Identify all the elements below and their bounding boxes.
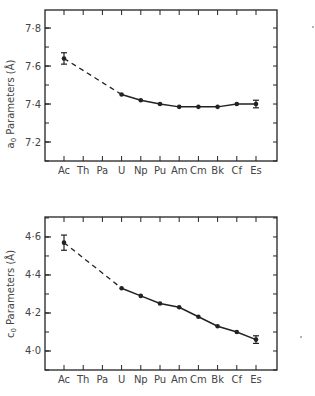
x-tick-label: Bk [211,165,224,176]
data-point [215,324,220,329]
chart-a0-parameters: AcThPaUNpPuAmCmBkCfEs7·27·47·67·8a0 Para… [4,10,277,176]
x-tick-label: Pa [97,165,109,176]
x-tick-label: Am [171,165,188,176]
extrapolated-trend-line [64,58,122,94]
data-point [158,102,163,107]
data-point [254,337,259,342]
data-point [254,102,259,107]
plot-frame [45,217,277,370]
figure: AcThPaUNpPuAmCmBkCfEs7·27·47·67·8a0 Para… [0,0,315,396]
data-point [215,105,220,110]
y-tick-label: 7·2 [25,137,41,148]
y-tick-label: 7·6 [25,61,41,72]
data-point [139,294,144,299]
x-tick-label: Es [250,374,262,385]
data-point [62,240,67,245]
data-point [119,286,124,291]
x-tick-label: U [118,165,125,176]
x-tick-label: Bk [211,374,224,385]
data-point [158,301,163,306]
x-tick-label: Ac [58,165,70,176]
x-tick-label: Np [134,374,148,385]
x-tick-label: Cm [190,374,207,385]
x-tick-label: Am [171,374,188,385]
data-point [235,330,240,335]
y-axis-label: c0 Parameters (Å) [4,250,18,338]
data-point [196,105,201,110]
chart-c0-parameters: AcThPaUNpPuAmCmBkCfEs4·04·24·44·6c0 Para… [4,217,277,385]
extrapolated-trend-line [64,243,122,289]
x-tick-label: Cf [232,374,243,385]
data-point [119,92,124,97]
y-tick-label: 7·8 [25,23,41,34]
y-tick-label: 4·6 [25,231,41,242]
x-tick-label: U [118,374,125,385]
data-point [62,56,67,61]
data-point [139,98,144,103]
data-point [177,305,182,310]
scan-speck [312,26,314,28]
x-tick-label: Cm [190,165,207,176]
y-tick-label: 7·4 [25,99,41,110]
y-axis-label: a0 Parameters (Å) [4,59,18,148]
x-tick-label: Ac [58,374,70,385]
data-point [196,314,201,319]
x-tick-label: Th [76,165,89,176]
x-tick-label: Cf [232,165,243,176]
data-point [177,105,182,110]
y-tick-label: 4·0 [25,345,41,356]
x-tick-label: Np [134,165,148,176]
x-tick-label: Es [250,165,262,176]
scan-speck [300,336,302,338]
y-tick-label: 4·2 [25,307,41,318]
x-tick-label: Pu [154,165,166,176]
y-tick-label: 4·4 [25,269,41,280]
x-tick-label: Th [76,374,89,385]
x-tick-label: Pu [154,374,166,385]
data-point [235,102,240,107]
x-tick-label: Pa [97,374,109,385]
plot-frame [45,10,277,161]
